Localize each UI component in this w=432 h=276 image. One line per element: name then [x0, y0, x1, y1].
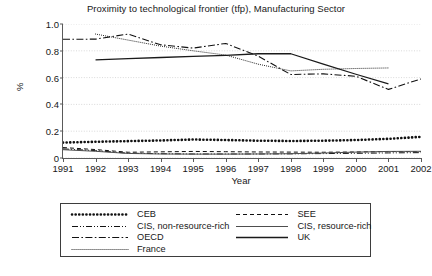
- x-tick-mark: [161, 158, 162, 162]
- x-tick-mark: [421, 158, 422, 162]
- x-tick-label: 1999: [313, 163, 334, 174]
- x-tick-mark: [323, 158, 324, 162]
- legend-label-oecd: OECD: [137, 232, 229, 244]
- x-tick-mark: [291, 158, 292, 162]
- x-axis-label: Year: [62, 175, 420, 186]
- legend-label-cis-resource-rich: CIS, resource-rich: [297, 221, 371, 233]
- legend-swatch-ceb: [70, 209, 132, 220]
- y-tick-mark: [60, 24, 63, 25]
- y-tick-mark: [60, 104, 63, 105]
- legend-swatch-france: [70, 244, 132, 255]
- y-tick-label: 0: [54, 153, 59, 164]
- x-tick-label: 1998: [280, 163, 301, 174]
- chart-figure: Proximity to technological frontier (tfp…: [0, 0, 432, 276]
- legend-swatch-uk: [234, 232, 292, 243]
- legend-grid: CEBSEECIS, non-resource-richCIS, resourc…: [70, 209, 371, 255]
- plot-area: 00.20.40.60.81.0 19911992199319941995199…: [62, 24, 421, 159]
- x-tick-mark: [226, 158, 227, 162]
- legend-label-uk: UK: [297, 232, 371, 244]
- x-tick-mark: [356, 158, 357, 162]
- x-tick-label: 2001: [378, 163, 399, 174]
- legend-swatch-cis-resource-rich: [234, 221, 292, 232]
- y-tick-mark: [60, 50, 63, 51]
- x-tick-mark: [96, 158, 97, 162]
- x-tick-mark: [193, 158, 194, 162]
- y-tick-label: 0.2: [46, 126, 59, 137]
- series-line-uk: [96, 54, 389, 84]
- legend-swatch-oecd: [70, 232, 132, 243]
- x-tick-label: 2000: [345, 163, 366, 174]
- x-tick-label: 1993: [118, 163, 139, 174]
- x-tick-label: 1992: [85, 163, 106, 174]
- x-tick-mark: [63, 158, 64, 162]
- legend-label-cis-non-resource-rich: CIS, non-resource-rich: [137, 221, 229, 233]
- y-tick-label: 0.8: [46, 45, 59, 56]
- x-tick-label: 1995: [183, 163, 204, 174]
- x-tick-label: 1994: [150, 163, 171, 174]
- legend: CEBSEECIS, non-resource-richCIS, resourc…: [60, 203, 371, 257]
- plot-canvas: [63, 24, 421, 158]
- y-tick-label: 1.0: [46, 19, 59, 30]
- x-tick-label: 1997: [248, 163, 269, 174]
- chart-title: Proximity to technological frontier (tfp…: [0, 3, 432, 14]
- y-tick-mark: [60, 77, 63, 78]
- x-tick-label: 1991: [52, 163, 73, 174]
- legend-swatch-cis-non-resource-rich: [70, 221, 132, 232]
- series-line-france: [96, 34, 389, 71]
- x-tick-label: 2002: [410, 163, 431, 174]
- x-tick-label: 1996: [215, 163, 236, 174]
- legend-swatch-see: [234, 209, 292, 220]
- legend-label-see: SEE: [297, 209, 371, 221]
- y-tick-label: 0.6: [46, 72, 59, 83]
- y-tick-label: 0.4: [46, 99, 59, 110]
- series-line-ceb: [63, 137, 421, 143]
- series-line-oecd: [63, 34, 421, 89]
- x-tick-mark: [128, 158, 129, 162]
- y-axis-label: %: [14, 83, 25, 91]
- legend-label-france: France: [137, 244, 229, 256]
- series-lines: [63, 34, 421, 154]
- x-tick-mark: [258, 158, 259, 162]
- gridlines: [63, 24, 421, 158]
- legend-label-ceb: CEB: [137, 209, 229, 221]
- x-tick-mark: [388, 158, 389, 162]
- y-tick-mark: [60, 131, 63, 132]
